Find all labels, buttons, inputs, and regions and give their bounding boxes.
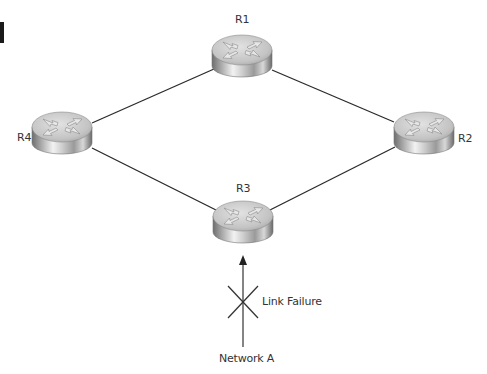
- router-label-r2: R2: [458, 132, 472, 145]
- router-r3-icon: [213, 201, 273, 243]
- link-r4-r1: [92, 69, 214, 123]
- router-label-r3: R3: [236, 182, 250, 195]
- router-r2-icon: [394, 112, 454, 154]
- link-failure-label: Link Failure: [262, 295, 322, 308]
- link-r1-r2: [272, 70, 394, 122]
- network-a-label: Network A: [219, 352, 274, 365]
- network-diagram: R1 R2 R3 R4 Link Failure Network A: [0, 0, 487, 374]
- arrow-up-icon: [239, 255, 247, 265]
- link-r3-r2: [266, 147, 395, 212]
- router-label-r1: R1: [235, 13, 249, 26]
- router-label-r4: R4: [17, 131, 31, 144]
- router-r4-icon: [32, 112, 92, 154]
- network-uplink: [239, 255, 247, 347]
- router-r1-icon: [212, 35, 272, 77]
- link-r4-r3: [92, 148, 222, 213]
